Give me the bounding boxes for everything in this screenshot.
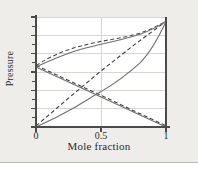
x-axis-title: Mole fraction (0, 140, 198, 152)
y-axis-title: Pressure (4, 39, 15, 99)
bottom-margin-strip (0, 163, 198, 173)
y-axis-ticks (31, 17, 37, 127)
chart-figure: 0 0.5 1 Mole fraction Pressure (0, 0, 198, 173)
